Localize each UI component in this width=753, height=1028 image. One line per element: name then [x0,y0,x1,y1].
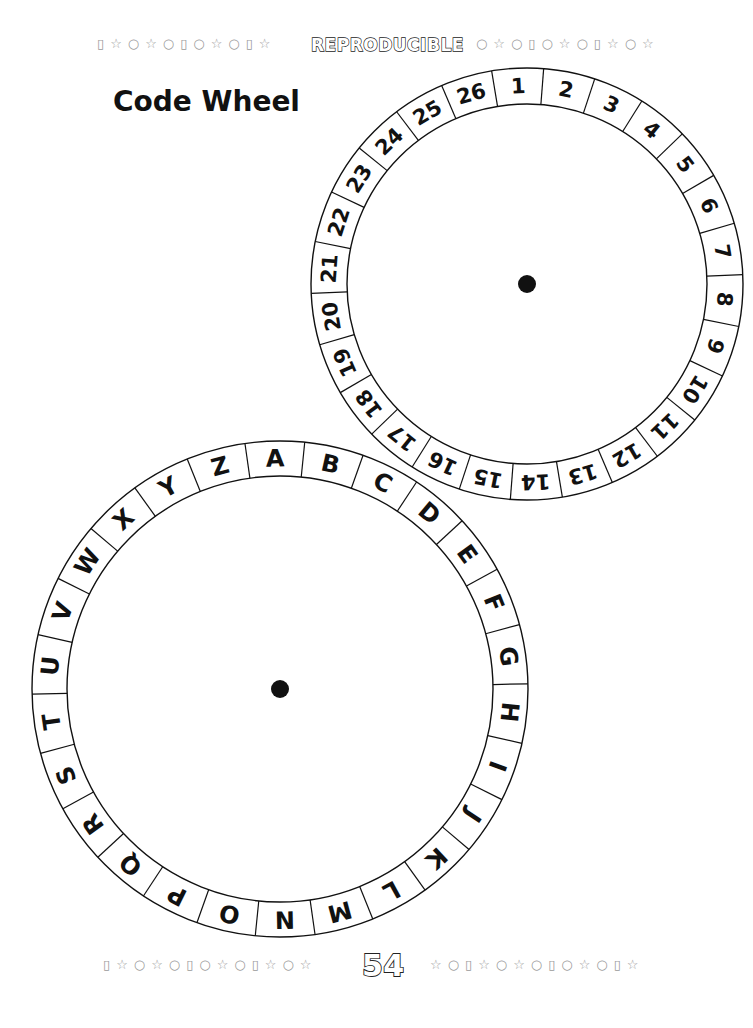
letter_wheel-label: N [274,905,295,933]
letter_wheel-label: G [493,645,524,668]
footer-decoration-right: ☆○▯☆○☆○▯○☆○▯☆ [430,957,644,972]
code-wheels: 1234567891011121314151617181920212223242… [0,0,753,1028]
footer-decoration-left: ▯☆○☆○▯○☆○▯☆○☆ [103,957,317,972]
letter_wheel-center-hole[interactable] [271,680,289,698]
letter_wheel-cell-divider [32,693,67,694]
number_wheel-center-hole[interactable] [518,275,536,293]
page-number: 54 [362,948,405,983]
number_wheel-label: 21 [316,253,342,284]
number_wheel-label: 14 [521,469,551,494]
letter_wheel-label: U [36,655,66,677]
letter_wheel-label: H [494,701,524,724]
number_wheel-label: 1 [511,74,527,99]
letter-wheel[interactable]: ABCDEFGHIJKLMNOPQRSTUVWXYZ [32,441,528,937]
number_wheel-label: 20 [317,300,345,333]
letter_wheel-label: A [266,444,286,472]
number_wheel-label: 8 [712,291,737,307]
letter_wheel-cell-divider [493,684,528,685]
number-wheel[interactable]: 1234567891011121314151617181920212223242… [311,68,743,500]
